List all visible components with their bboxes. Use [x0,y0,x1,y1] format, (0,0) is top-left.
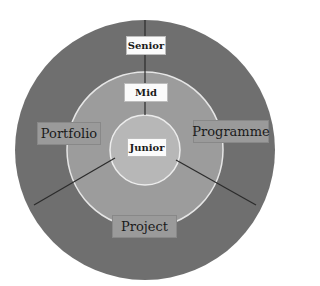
level-label-mid: Mid [124,83,168,102]
domain-label-programme: Programme [193,120,269,143]
domain-label-portfolio: Portfolio [37,122,101,145]
level-label-senior: Senior [126,36,166,55]
level-label-junior: Junior [127,138,167,157]
domain-label-project: Project [112,215,177,238]
